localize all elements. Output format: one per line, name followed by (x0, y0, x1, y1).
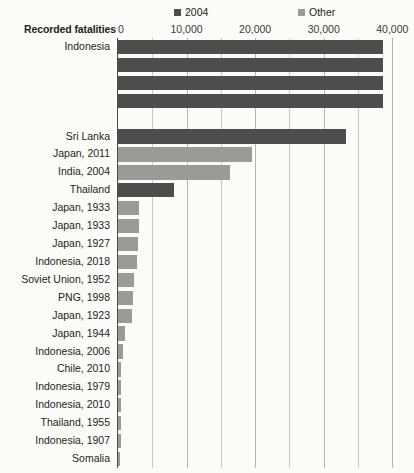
square-swatch-icon (298, 9, 305, 16)
category-labels: IndonesiaSri LankaJapan, 2011India, 2004… (0, 38, 114, 468)
bar (118, 291, 133, 305)
bar-row (118, 111, 406, 125)
bar-row (118, 434, 406, 448)
bar (118, 129, 346, 143)
square-swatch-icon (174, 9, 181, 16)
category-label: PNG, 1998 (58, 292, 110, 303)
x-tick-label: 40,000 (376, 23, 408, 35)
bar-rows (118, 38, 406, 468)
bar-row (118, 255, 406, 269)
bar (118, 147, 252, 161)
bar-row (118, 416, 406, 430)
bar-row (118, 147, 406, 161)
category-label: Somalia (72, 453, 110, 464)
category-label: Indonesia, 1907 (35, 435, 110, 446)
bar-row (118, 380, 406, 394)
bar (118, 219, 139, 233)
category-label: Indonesia, 2010 (35, 399, 110, 410)
category-label: India, 2004 (58, 166, 110, 177)
bar (118, 416, 121, 430)
bar-row (118, 344, 406, 358)
bar-row (118, 165, 406, 179)
category-label: Indonesia, 2018 (35, 256, 110, 267)
bar-row (118, 183, 406, 197)
bar (118, 326, 125, 340)
legend-item-other: Other (298, 6, 335, 18)
bar-row (118, 129, 406, 143)
bar (118, 94, 383, 108)
x-axis-title: Recorded fatalities (24, 23, 116, 35)
category-label: Thailand, 1955 (41, 417, 110, 428)
bar (118, 201, 139, 215)
x-tick-label: 0 (118, 23, 124, 35)
bar (118, 344, 123, 358)
bar-row (118, 362, 406, 376)
x-tick-label: 20,000 (239, 23, 271, 35)
bar-row (118, 273, 406, 287)
plot-area (118, 38, 406, 468)
x-tick-label: 30,000 (308, 23, 340, 35)
category-label: Japan, 2011 (53, 148, 110, 159)
bar (118, 380, 121, 394)
x-tick-label: 10,000 (171, 23, 203, 35)
bar-row (118, 219, 406, 233)
category-label: Japan, 1923 (52, 310, 110, 321)
bar (118, 76, 383, 90)
category-label: Japan, 1933 (52, 220, 110, 231)
bar (118, 255, 137, 269)
bar (118, 362, 121, 376)
category-label: Indonesia (64, 41, 110, 52)
bar (118, 398, 121, 412)
bar (118, 309, 132, 323)
category-label: Soviet Union, 1952 (21, 274, 110, 285)
bar (118, 165, 230, 179)
bar-row (118, 326, 406, 340)
bar (118, 237, 138, 251)
bar-row (118, 94, 406, 108)
category-label: Chile, 2010 (57, 363, 110, 374)
x-axis-header: Recorded fatalities 010,00020,00030,0004… (0, 22, 414, 38)
bar-row (118, 237, 406, 251)
bar-row (118, 40, 406, 54)
bar-row (118, 58, 406, 72)
bar (118, 58, 383, 72)
bar-row (118, 398, 406, 412)
category-label: Japan, 1927 (52, 238, 110, 249)
bar-row (118, 309, 406, 323)
legend-label: Other (309, 6, 335, 18)
category-label: Indonesia, 2006 (35, 346, 110, 357)
bar (118, 40, 383, 54)
legend-label: 2004 (185, 6, 208, 18)
category-label: Japan, 1944 (52, 328, 110, 339)
bar (118, 452, 120, 466)
category-label: Japan, 1933 (52, 202, 110, 213)
chart-legend: 2004 Other (0, 4, 414, 22)
bar-row (118, 291, 406, 305)
bar (118, 434, 121, 448)
bar (118, 183, 174, 197)
bar-row (118, 201, 406, 215)
category-label: Indonesia, 1979 (35, 381, 110, 392)
category-label: Sri Lanka (66, 131, 110, 142)
bar-row (118, 452, 406, 466)
bar (118, 273, 134, 287)
legend-item-2004: 2004 (174, 6, 208, 18)
bar-row (118, 76, 406, 90)
category-label: Thailand (70, 184, 110, 195)
